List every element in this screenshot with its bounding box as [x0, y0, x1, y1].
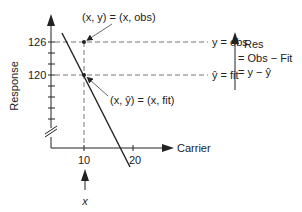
y-tick-120: 120	[28, 69, 46, 81]
residual-line-3: = y − ŷ	[238, 66, 272, 78]
y-axis-label: Response	[8, 61, 20, 111]
residual-line-2: = Obs − Fit	[238, 52, 292, 64]
y-axis: 126 120 Response	[8, 14, 57, 148]
x-axis-label: Carrier	[177, 142, 211, 154]
fitted-point	[82, 73, 86, 77]
x-marker: x	[81, 169, 89, 207]
fit-annotation: (x, ŷ) = (x, fit)	[110, 94, 174, 106]
x-axis: 10 20 Carrier	[51, 142, 211, 166]
residual-diagram: 126 120 Response 10 20 Carrier x y = obs…	[0, 0, 302, 212]
x-tick-10: 10	[78, 154, 90, 166]
observed-point	[82, 40, 86, 44]
obs-annotation: (x, y) = (x, obs)	[82, 11, 156, 23]
fit-pointer-arrow-icon	[89, 79, 108, 96]
x-marker-arrow-icon	[81, 169, 89, 181]
x-tick-20: 20	[129, 154, 141, 166]
obs-pointer-arrow-icon	[89, 24, 112, 39]
x-axis-arrow-icon	[162, 144, 174, 152]
y-tick-126: 126	[28, 36, 46, 48]
y-axis-arrow-icon	[47, 14, 55, 26]
obs-guide-label: y = obs	[212, 36, 248, 48]
x-marker-label: x	[81, 195, 88, 207]
residual-line-1: Res	[244, 38, 264, 50]
